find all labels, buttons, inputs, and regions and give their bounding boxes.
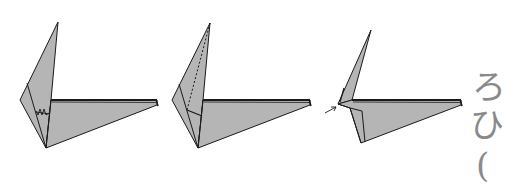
step-3-figure [325, 30, 462, 143]
edge-glyph-2: ひ [470, 108, 504, 142]
step-2-figure [172, 23, 311, 148]
arrow-icon [325, 107, 336, 113]
edge-glyph-3: ( [476, 148, 489, 182]
step-1-figure [20, 22, 158, 148]
edge-glyph-1: ろ [472, 70, 506, 104]
